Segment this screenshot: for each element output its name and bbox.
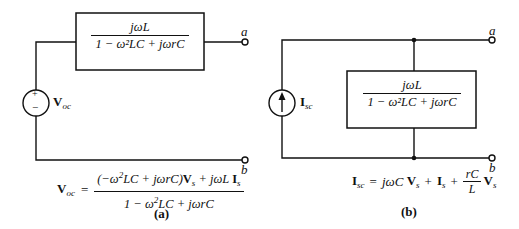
impedance-numerator-b: jωL bbox=[399, 78, 424, 93]
voc-symbol: V bbox=[53, 94, 62, 109]
minus-sign: − bbox=[32, 101, 38, 113]
wire-a-bottom bbox=[36, 116, 242, 160]
impedance-denominator-b: 1 − ω²LC + jωrC bbox=[363, 93, 461, 109]
isc-eq-fraction: rC L bbox=[463, 168, 482, 195]
impedance-numerator-a: jωL bbox=[127, 20, 152, 35]
current-arrow-head-icon bbox=[279, 92, 286, 100]
isc-equation: Isc = jωC Vs + Is + rC L Vs bbox=[352, 168, 496, 195]
isc-eq-plus1: + bbox=[425, 174, 432, 190]
terminal-a-label: a bbox=[241, 24, 248, 40]
junction-dot-bottom bbox=[412, 156, 417, 161]
terminal-a-label-b: a bbox=[489, 23, 496, 39]
plus-sign: + bbox=[32, 88, 38, 99]
voc-equation: Voc = (−ω2LC + jωrC)Vs + jωL Is 1 − ω2LC… bbox=[57, 168, 244, 211]
source-label-isc: Isc bbox=[300, 94, 313, 111]
isc-eq-frac-den: L bbox=[463, 181, 482, 195]
isc-eq-term3-var: Vs bbox=[483, 173, 496, 190]
caption-b: (b) bbox=[401, 204, 417, 220]
impedance-expression-b: jωL 1 − ω²LC + jωrC bbox=[364, 78, 460, 109]
isc-eq-term1-var: Vs bbox=[407, 173, 420, 190]
impedance-denominator-a: 1 − ω²LC + jωrC bbox=[91, 35, 189, 51]
voc-eq-lhs: Voc bbox=[57, 181, 75, 198]
voc-eq-equals: = bbox=[81, 182, 88, 198]
source-label-voc: Voc bbox=[53, 94, 71, 111]
isc-eq-frac-num: rC bbox=[463, 168, 482, 181]
isc-eq-equals: = bbox=[370, 174, 377, 190]
isc-eq-term1: jωC bbox=[382, 174, 407, 190]
isc-eq-plus2: + bbox=[450, 174, 457, 190]
isc-eq-lhs: Isc bbox=[352, 173, 365, 190]
junction-dot-top bbox=[412, 38, 417, 43]
wire-b-bottom bbox=[282, 116, 489, 158]
voc-eq-numerator: (−ω2LC + jωrC)Vs + jωL Is bbox=[94, 168, 243, 191]
isc-subscript: sc bbox=[305, 101, 313, 111]
impedance-expression-a: jωL 1 − ω²LC + jωrC bbox=[92, 20, 188, 51]
wire-a-top-left bbox=[36, 42, 76, 90]
voc-subscript: oc bbox=[62, 101, 71, 111]
caption-a: (a) bbox=[154, 206, 169, 222]
voc-eq-fraction: (−ω2LC + jωrC)Vs + jωL Is 1 − ω2LC + jωr… bbox=[94, 168, 243, 211]
isc-eq-term2-var: Is bbox=[437, 173, 446, 190]
